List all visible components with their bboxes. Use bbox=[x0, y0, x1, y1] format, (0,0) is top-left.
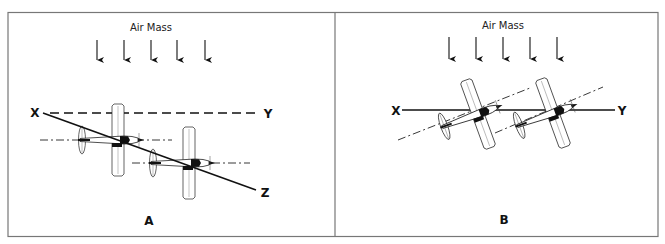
axis-label-x-a: X bbox=[30, 106, 39, 120]
descending-flight-path bbox=[43, 113, 256, 190]
air-mass-label-b: Air Mass bbox=[482, 20, 524, 31]
figure: Air Mass X Y Z A Air Mass X Y B bbox=[0, 0, 665, 244]
airplane-icon bbox=[503, 70, 590, 160]
air-mass-label-a: Air Mass bbox=[130, 22, 172, 33]
panel-label-a: A bbox=[144, 214, 153, 228]
diagram-canvas bbox=[0, 0, 665, 244]
panel-b bbox=[398, 37, 615, 162]
axis-label-y-a: Y bbox=[264, 107, 273, 121]
panel-label-b: B bbox=[499, 213, 508, 227]
air-mass-arrows bbox=[449, 37, 557, 59]
panel-a bbox=[40, 40, 260, 199]
axis-label-y-b: Y bbox=[618, 104, 627, 118]
aircraft-axis-line bbox=[398, 88, 530, 140]
airplane-icon bbox=[78, 104, 144, 176]
axis-label-z-a: Z bbox=[261, 186, 270, 200]
axis-label-x-b: X bbox=[391, 104, 400, 118]
air-mass-arrows bbox=[97, 40, 205, 60]
airplane-icon bbox=[428, 71, 515, 161]
